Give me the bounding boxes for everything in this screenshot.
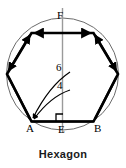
vertex-label-e: E xyxy=(58,124,65,135)
vertex-label-b: B xyxy=(94,123,101,134)
dimension-label-4: 4 xyxy=(57,80,63,91)
hexagon-figure: F A E B 6 4 Hexagon xyxy=(0,0,126,168)
figure-caption: Hexagon xyxy=(0,148,126,160)
leader-arrow-4 xyxy=(34,90,70,119)
hexagon-upper-right-edge xyxy=(95,35,117,71)
dimension-label-6: 6 xyxy=(56,62,62,73)
vertex-label-a: A xyxy=(26,123,34,134)
vertex-label-f: F xyxy=(57,10,63,21)
leader-arrow-6 xyxy=(33,72,70,118)
hexagon-diagram-svg xyxy=(0,0,126,168)
hexagon-upper-left-edge xyxy=(9,35,31,71)
